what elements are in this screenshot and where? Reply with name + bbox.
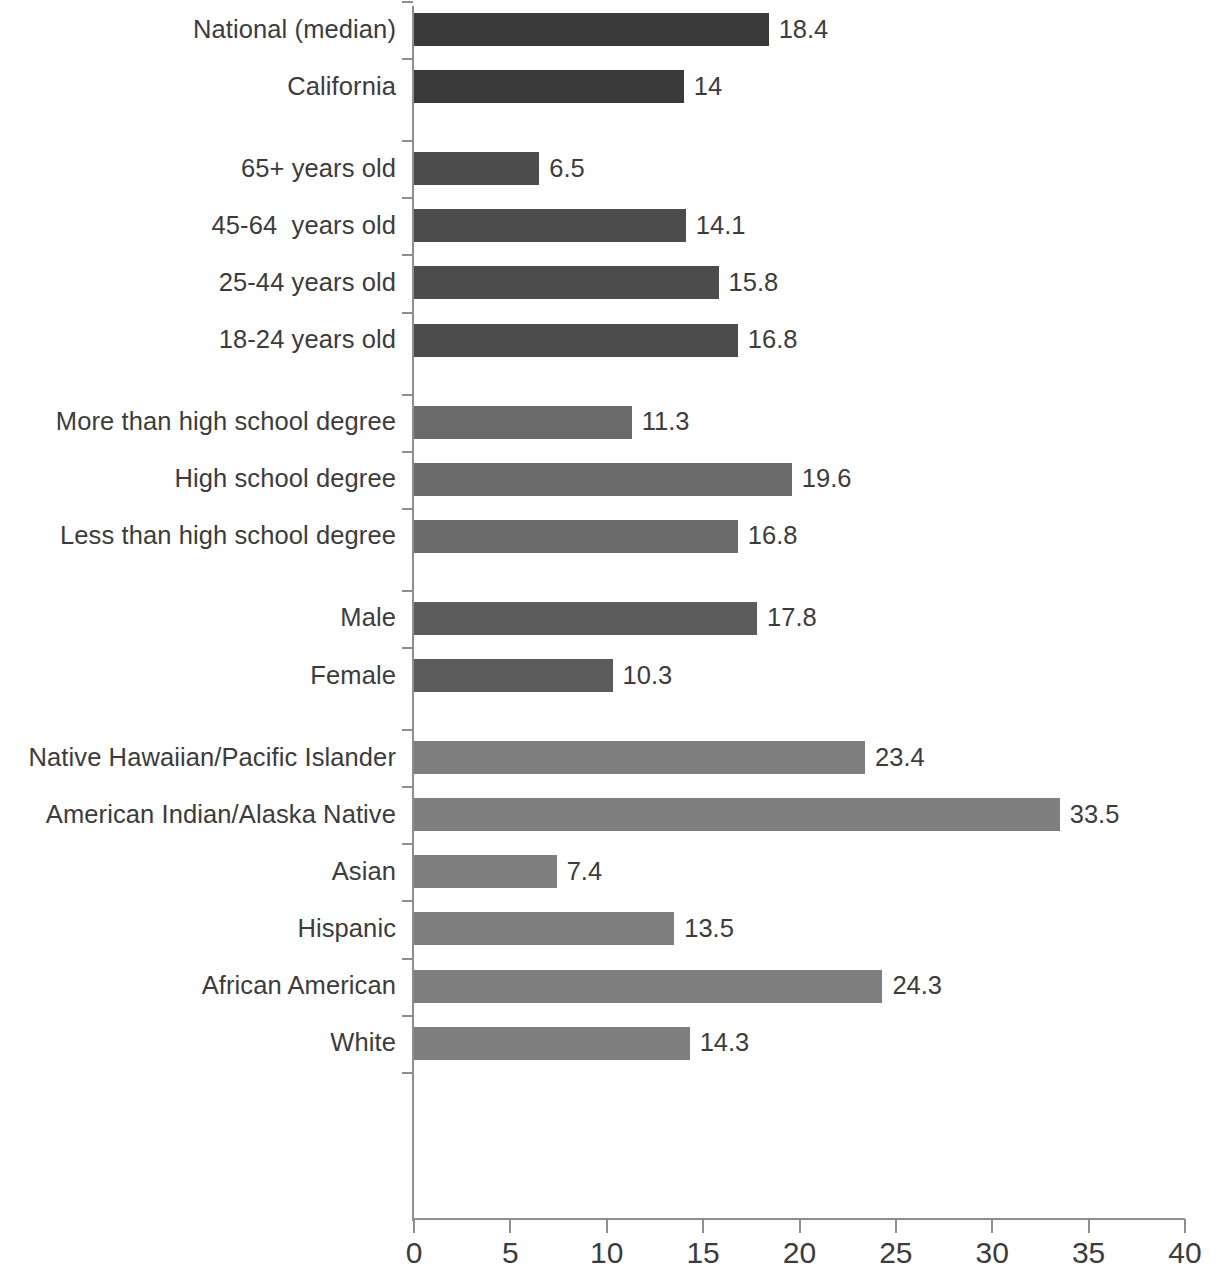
bar: [414, 13, 769, 46]
bar-category-label: High school degree: [174, 466, 396, 492]
value-tick: [413, 1219, 415, 1233]
bar-value-label: 16.8: [748, 327, 798, 353]
bar-value-label: 24.3: [892, 973, 942, 999]
category-tick: [402, 786, 413, 788]
category-tick: [402, 312, 413, 314]
bar-row: White14.3: [0, 1027, 1215, 1060]
bar-category-label: Male: [340, 606, 396, 632]
category-tick: [402, 254, 413, 256]
value-tick-label: 5: [502, 1238, 519, 1268]
value-tick-label: 20: [783, 1238, 816, 1268]
value-tick: [799, 1219, 801, 1233]
bar: [414, 209, 686, 242]
bar-category-label: 65+ years old: [241, 156, 396, 182]
category-tick: [402, 451, 413, 453]
bar-value-label: 15.8: [729, 270, 779, 296]
value-tick-label: 15: [686, 1238, 719, 1268]
category-tick: [402, 394, 413, 396]
bar: [414, 912, 674, 945]
bar-category-label: California: [287, 74, 396, 100]
value-tick: [606, 1219, 608, 1233]
bar-category-label: Hispanic: [297, 916, 396, 942]
bar-row: National (median)18.4: [0, 13, 1215, 46]
bar-category-label: American Indian/Alaska Native: [46, 802, 396, 828]
bar: [414, 520, 738, 553]
bar: [414, 798, 1060, 831]
category-tick: [402, 958, 413, 960]
bar-value-label: 33.5: [1070, 802, 1120, 828]
bar-value-label: 10.3: [623, 663, 673, 689]
bar-value-label: 23.4: [875, 745, 925, 771]
bar: [414, 1027, 690, 1060]
bar-category-label: Asian: [332, 859, 396, 885]
bar-category-label: Female: [310, 663, 396, 689]
bar-row: 65+ years old6.5: [0, 152, 1215, 185]
category-tick: [402, 843, 413, 845]
bar-row: California14: [0, 70, 1215, 103]
value-tick-label: 30: [976, 1238, 1009, 1268]
bar-row: Native Hawaiian/Pacific Islander23.4: [0, 741, 1215, 774]
category-tick: [402, 1015, 413, 1017]
bar-category-label: 25-44 years old: [219, 270, 396, 296]
bar-category-label: Less than high school degree: [60, 524, 396, 550]
category-tick: [402, 140, 413, 142]
value-tick: [702, 1219, 704, 1233]
value-tick-label: 35: [1072, 1238, 1105, 1268]
value-tick-label: 10: [590, 1238, 623, 1268]
bar-row: African American24.3: [0, 970, 1215, 1003]
value-tick: [1088, 1219, 1090, 1233]
value-tick: [1184, 1219, 1186, 1233]
bar-value-label: 14.1: [696, 213, 746, 239]
bar-row: 18-24 years old16.8: [0, 324, 1215, 357]
category-tick: [402, 58, 413, 60]
bar-chart: National (median)18.4California1465+ yea…: [0, 0, 1215, 1277]
category-tick: [402, 729, 413, 731]
bar: [414, 266, 719, 299]
value-tick-label: 0: [406, 1238, 423, 1268]
bar-value-label: 14: [694, 74, 722, 100]
value-tick-label: 40: [1168, 1238, 1201, 1268]
bar-value-label: 17.8: [767, 606, 817, 632]
bar: [414, 406, 632, 439]
value-tick: [991, 1219, 993, 1233]
bar-value-label: 16.8: [748, 524, 798, 550]
bar-category-label: Native Hawaiian/Pacific Islander: [29, 745, 396, 771]
bar-value-label: 14.3: [700, 1030, 750, 1056]
bar-category-label: 18-24 years old: [219, 327, 396, 353]
category-tick: [402, 1, 413, 3]
bar-row: More than high school degree11.3: [0, 406, 1215, 439]
bar-row: Male17.8: [0, 602, 1215, 635]
bar-row: Female10.3: [0, 659, 1215, 692]
bar: [414, 324, 738, 357]
bar-value-label: 7.4: [567, 859, 602, 885]
bar-value-label: 11.3: [642, 409, 690, 435]
bar-value-label: 18.4: [779, 17, 829, 43]
bar: [414, 602, 757, 635]
bar-category-label: National (median): [193, 17, 396, 43]
plot-area: National (median)18.4California1465+ yea…: [0, 0, 1215, 1277]
bar-row: 45-64 years old14.1: [0, 209, 1215, 242]
bar-category-label: White: [330, 1030, 396, 1056]
value-tick: [509, 1219, 511, 1233]
category-tick: [402, 1072, 413, 1074]
bar-row: American Indian/Alaska Native33.5: [0, 798, 1215, 831]
category-tick: [402, 508, 413, 510]
category-tick: [402, 197, 413, 199]
bar-value-label: 19.6: [802, 466, 852, 492]
value-tick-label: 25: [879, 1238, 912, 1268]
bar: [414, 855, 557, 888]
value-tick: [895, 1219, 897, 1233]
bar-category-label: African American: [202, 973, 396, 999]
bar-row: Less than high school degree16.8: [0, 520, 1215, 553]
bar: [414, 70, 684, 103]
bar: [414, 463, 792, 496]
bar-category-label: 45-64 years old: [212, 213, 396, 239]
bar-value-label: 13.5: [684, 916, 734, 942]
bar: [414, 659, 613, 692]
bar-value-label: 6.5: [549, 156, 584, 182]
bar-row: Asian7.4: [0, 855, 1215, 888]
bar-row: High school degree19.6: [0, 463, 1215, 496]
bar: [414, 970, 882, 1003]
bar-row: Hispanic13.5: [0, 912, 1215, 945]
bar-category-label: More than high school degree: [56, 409, 396, 435]
